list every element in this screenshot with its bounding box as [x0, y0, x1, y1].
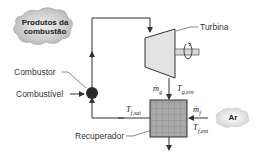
mass-flow-gas-label: ṁg: [153, 83, 162, 95]
fuel-label: Combustível: [16, 89, 63, 99]
products-label: Produtos da combustão: [18, 18, 72, 36]
temp-gas-in-label: Tg,ent: [177, 83, 194, 95]
temp-fuel-out-label: Tf,sai: [126, 104, 141, 116]
products-line1: Produtos da: [22, 18, 69, 27]
combustor: [86, 87, 98, 99]
turbine: [145, 29, 199, 78]
temp-fuel-in-label: Tf,ent: [193, 122, 208, 134]
tg-sub: g,ent: [182, 89, 194, 95]
mass-flow-fuel-label: ṁf: [193, 104, 201, 116]
turbine-label: Turbina: [200, 22, 229, 32]
mf-sub: f: [199, 110, 201, 116]
tfent-sub: f,ent: [198, 128, 209, 134]
air-label: Ar: [226, 113, 240, 122]
recuperator-label: Recuperador: [75, 131, 124, 141]
mg-sub: g: [159, 89, 162, 95]
tfsai-sub: f,sai: [131, 110, 141, 116]
combustor-label: Combustor: [14, 67, 56, 77]
recuperator: [150, 100, 187, 137]
products-line2: combustão: [24, 27, 67, 36]
